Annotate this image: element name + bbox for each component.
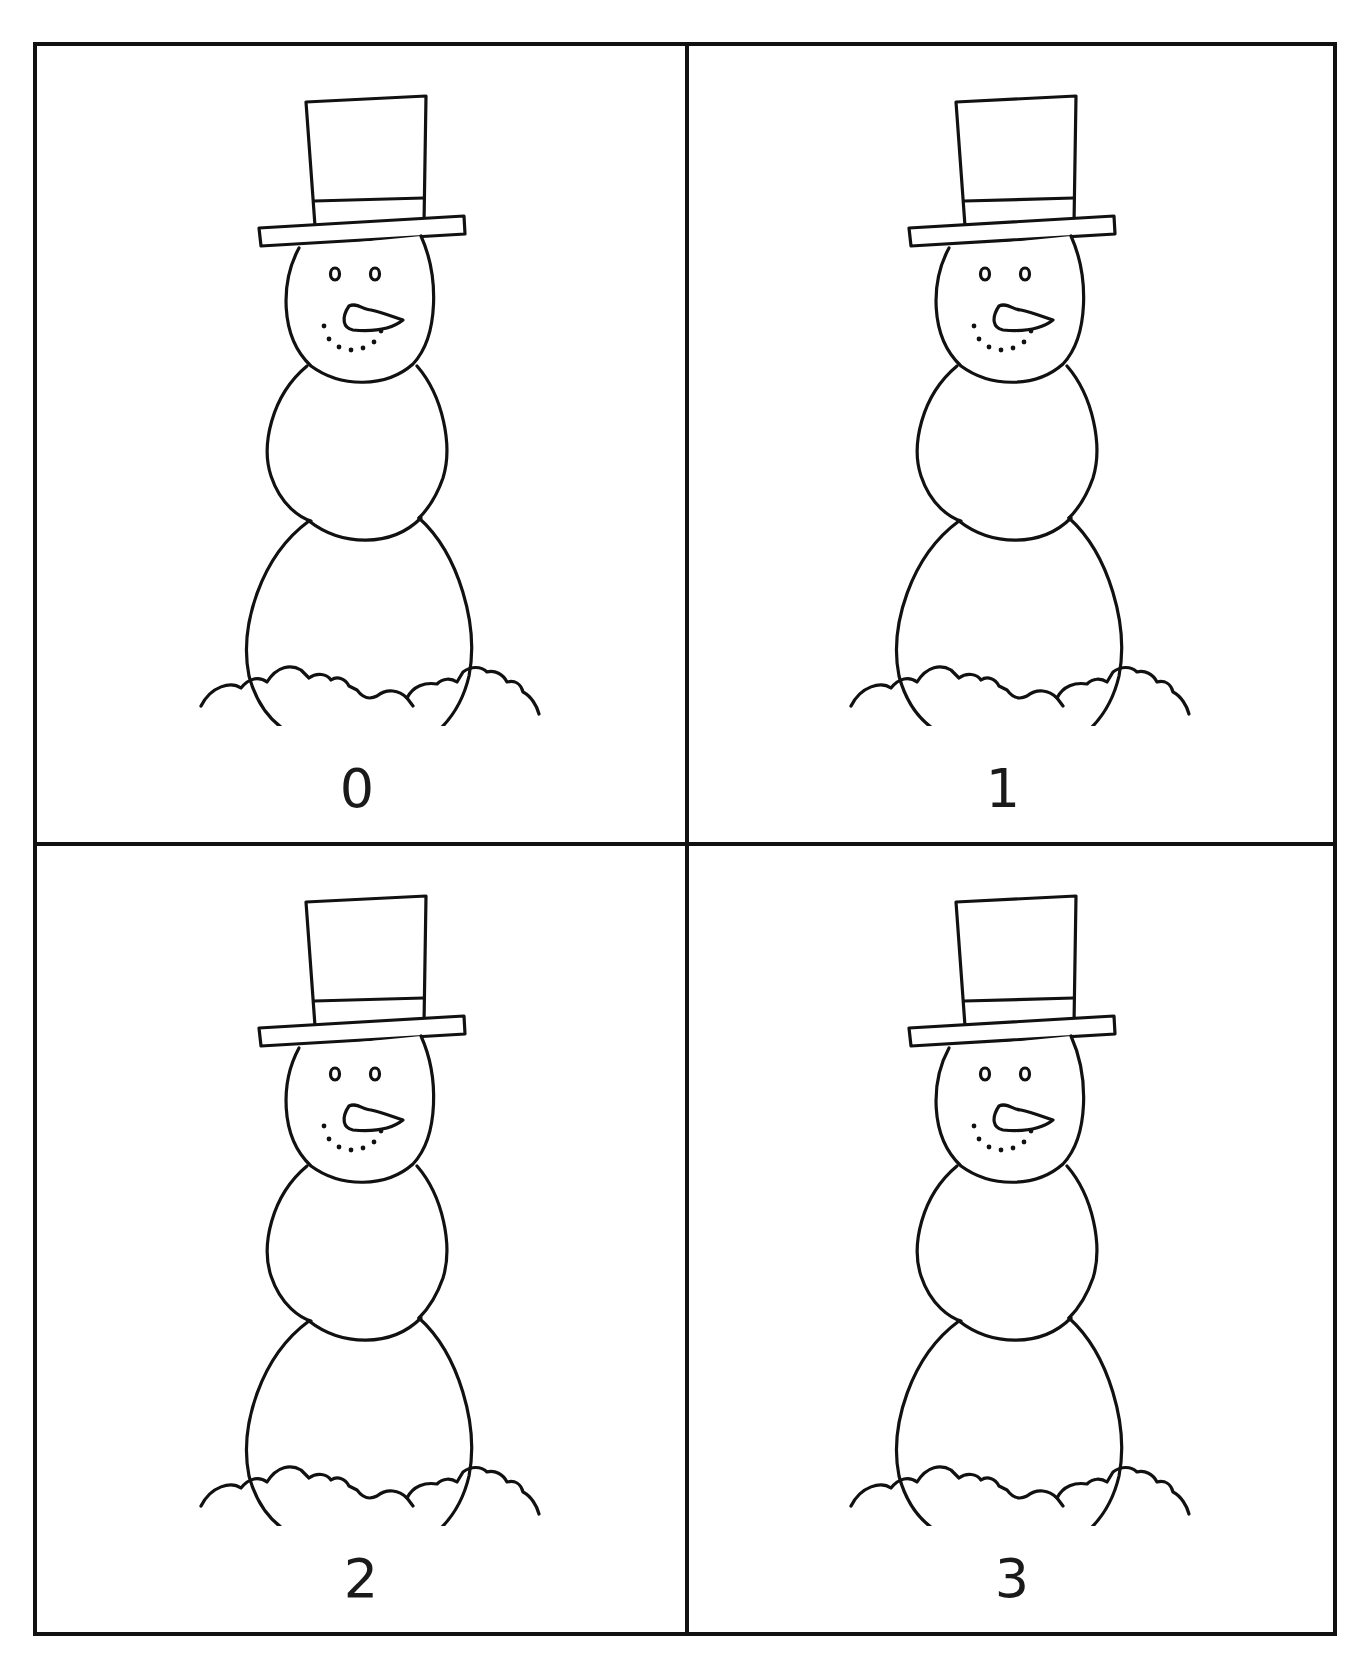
card-number-label: 0 bbox=[29, 762, 685, 816]
snowman-icon bbox=[181, 866, 541, 1526]
card-number-label: 3 bbox=[691, 1552, 1333, 1606]
snowman-icon bbox=[831, 66, 1191, 726]
card-1: 1 bbox=[689, 46, 1333, 846]
card-0: 0 bbox=[37, 46, 689, 846]
card-number-label: 2 bbox=[37, 1552, 685, 1606]
snowman-icon bbox=[831, 866, 1191, 1526]
card-2: 2 bbox=[37, 846, 689, 1632]
snowman-icon bbox=[181, 66, 541, 726]
snowman-counting-cards-sheet: 0 1 bbox=[33, 42, 1337, 1636]
card-3: 3 bbox=[689, 846, 1333, 1632]
card-number-label: 1 bbox=[673, 762, 1333, 816]
